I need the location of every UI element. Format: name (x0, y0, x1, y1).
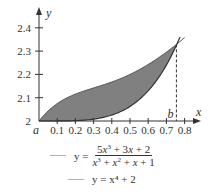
label-b: b (167, 107, 173, 121)
x-tick-label: 0.3 (87, 124, 101, 136)
x-tick-label: 0.5 (123, 124, 137, 136)
y-tick-label: 2.3 (17, 45, 31, 57)
chart: 0.10.20.30.40.50.60.70.822.12.22.32.4xya… (0, 0, 211, 195)
y-tick-label: 2.4 (17, 22, 31, 34)
x-axis-label: x (195, 105, 202, 119)
shaded-region (39, 44, 176, 121)
x-tick-label: 0.1 (50, 124, 64, 136)
x-tick-label: 0.7 (160, 124, 174, 136)
label-a: a (33, 123, 39, 137)
y-tick-label: 2.2 (17, 68, 31, 80)
x-tick-label: 0.4 (105, 124, 119, 136)
x-tick-label: 0.2 (69, 124, 83, 136)
x-tick-label: 0.8 (178, 124, 192, 136)
x-tick-label: 0.6 (141, 124, 155, 136)
y-axis-arrow-icon (36, 7, 42, 15)
y-tick-label: 2.1 (17, 92, 31, 104)
y-tick-label: 2 (26, 115, 32, 127)
y-axis-label: y (45, 6, 52, 20)
plot-area: 0.10.20.30.40.50.60.70.822.12.22.32.4xya… (17, 6, 202, 137)
